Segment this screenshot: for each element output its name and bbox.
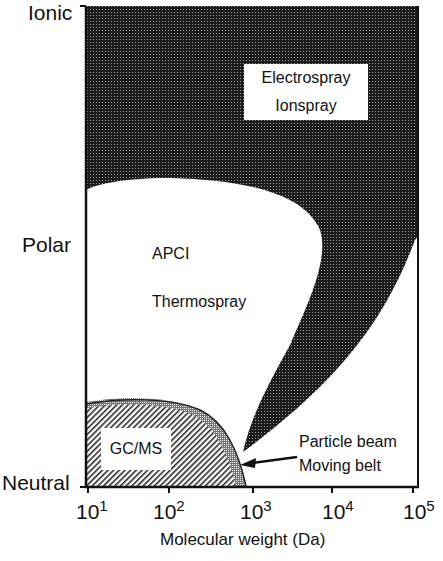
gcms-label: GC/MS bbox=[110, 440, 162, 457]
y-label-ionic: Ionic bbox=[28, 1, 72, 25]
particle-beam-label: Particle beam bbox=[299, 433, 397, 451]
ionspray-label: Ionspray bbox=[244, 92, 368, 120]
x-tick-1: 101 bbox=[76, 500, 108, 524]
moving-belt-label: Moving belt bbox=[299, 457, 381, 475]
gcms-label-box: GC/MS bbox=[101, 428, 171, 470]
electrospray-label-box: Electrospray Ionspray bbox=[244, 64, 368, 120]
electrospray-label: Electrospray bbox=[244, 64, 368, 92]
x-axis-title: Molecular weight (Da) bbox=[160, 530, 325, 550]
x-tick-3: 103 bbox=[240, 500, 272, 524]
y-label-polar: Polar bbox=[22, 233, 71, 257]
apci-label: APCI bbox=[152, 245, 189, 263]
pointer-arrow bbox=[252, 457, 297, 463]
x-tick-4: 104 bbox=[322, 500, 354, 524]
x-tick-2: 102 bbox=[153, 500, 185, 524]
thermospray-label: Thermospray bbox=[152, 293, 246, 311]
y-label-neutral: Neutral bbox=[2, 471, 70, 495]
x-tick-5: 105 bbox=[403, 500, 435, 524]
